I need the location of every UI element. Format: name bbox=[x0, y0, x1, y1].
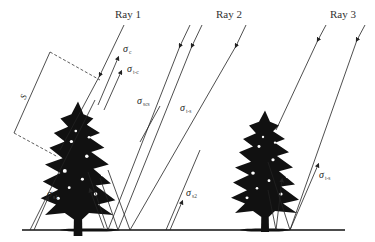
svg-text:t-s: t-s bbox=[325, 175, 331, 181]
label-sigma-t-c: σ t-c bbox=[127, 63, 139, 75]
label-sigma-scs: σ scs bbox=[137, 95, 150, 107]
svg-text:t-s: t-s bbox=[186, 108, 192, 114]
label-sigma-c: σ c bbox=[123, 43, 132, 55]
ray-1-title: Ray 1 bbox=[115, 8, 141, 20]
label-sigma-s1: σ s1 bbox=[47, 188, 58, 200]
scattering-diagram: Ray 1 Ray 2 Ray 3 bbox=[0, 0, 375, 242]
label-sigma-s2: σ s2 bbox=[186, 187, 197, 199]
label-sigma-t-s-2: σ t-s bbox=[319, 169, 331, 181]
tree-left bbox=[41, 102, 116, 236]
label-sigma-t-s: σ t-s bbox=[180, 102, 192, 114]
tree-right bbox=[231, 110, 299, 232]
svg-text:scs: scs bbox=[143, 101, 150, 107]
svg-text:c: c bbox=[129, 49, 132, 55]
ground-line bbox=[22, 228, 345, 231]
svg-text:s2: s2 bbox=[192, 193, 197, 199]
dimension-s-label: S bbox=[18, 92, 29, 101]
ray-2-title: Ray 2 bbox=[216, 8, 242, 20]
svg-text:t-c: t-c bbox=[133, 69, 139, 75]
ray-3-title: Ray 3 bbox=[330, 8, 356, 20]
svg-text:s1: s1 bbox=[53, 194, 58, 200]
